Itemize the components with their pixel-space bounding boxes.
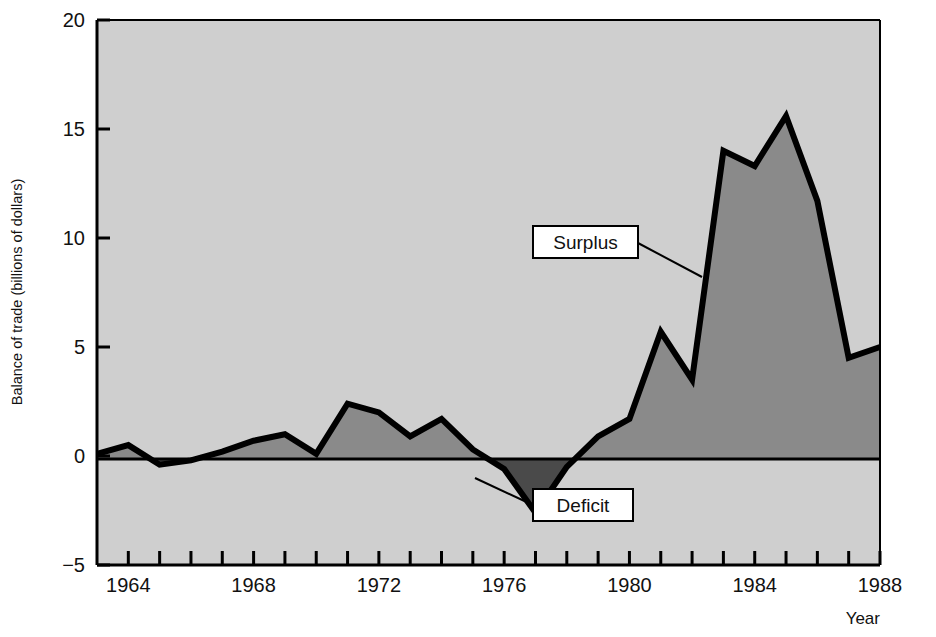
x-tick-label: 1980 (607, 574, 652, 596)
x-axis-title: Year (846, 609, 881, 628)
callout-label-surplus: Surplus (553, 232, 617, 253)
y-tick-label: 20 (63, 9, 85, 31)
y-tick-label: −5 (62, 554, 85, 576)
x-tick-label: 1976 (482, 574, 527, 596)
y-tick-label: 10 (63, 227, 85, 249)
x-tick-label: 1968 (231, 574, 276, 596)
y-axis-title: Balance of trade (billions of dollars) (9, 179, 25, 405)
chart-figure: 20151050−5 1964196819721976198019841988 … (0, 0, 936, 637)
callout-label-deficit: Deficit (557, 495, 611, 516)
y-tick-label: 15 (63, 118, 85, 140)
x-tick-label: 1988 (858, 574, 903, 596)
y-tick-label: 0 (74, 445, 85, 467)
y-tick-label: 5 (74, 336, 85, 358)
balance-of-trade-chart: 20151050−5 1964196819721976198019841988 … (0, 0, 936, 637)
x-tick-label: 1972 (357, 574, 402, 596)
x-tick-label: 1984 (732, 574, 777, 596)
x-tick-label: 1964 (106, 574, 151, 596)
